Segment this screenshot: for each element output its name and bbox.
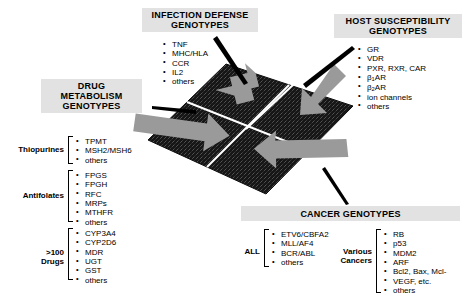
list-item: VDR [358,54,426,63]
list-item: ion channels [358,93,426,102]
list-item: β1AR [358,73,426,83]
group-label-antifolates: Antifolates [6,192,64,201]
infection-defense-title-line1: INFECTION DEFENSE [146,10,254,20]
drug-metabolism-title-line1: DRUG [45,81,138,91]
bracket-various-cancers [376,229,381,293]
list-item: others [76,276,116,285]
list-item: others [272,258,329,267]
host-susceptibility-title-line2: GENOTYPES [338,26,458,36]
panel-title-host-susceptibility: HOST SUSCEPTIBILITY GENOTYPES [334,14,462,38]
list-item: TPMT [76,137,132,146]
bracket-100-drugs [68,228,73,280]
list-item: IL2 [163,68,208,77]
list-item: MDM2 [384,249,446,258]
list-item: GST [76,266,116,275]
list-item: MHC/HLA [163,49,208,58]
pharmacogenomics-diagram: INFECTION DEFENSE GENOTYPES TNF MHC/HLA … [0,0,463,303]
bracket-thiopurines [68,136,73,164]
panel-title-drug-metabolism: DRUG METABOLISM GENOTYPES [41,79,142,113]
list-item: ARF [384,258,446,267]
list-thiopurines: TPMT MSH2/MSH6 others [76,137,132,165]
list-item: RB [384,230,446,239]
list-item: CYP2D6 [76,238,116,247]
host-susceptibility-title-line1: HOST SUSCEPTIBILITY [338,16,458,26]
list-item: others [76,156,132,165]
drug-metabolism-title-line2: METABOLISM [45,91,138,101]
list-item: others [76,218,113,227]
list-item: FPGS [76,171,113,180]
list-item: RFC [76,190,113,199]
list-item: UGT [76,257,116,266]
group-label-all: ALL [236,248,260,257]
list-item: CYP3A4 [76,229,116,238]
list-item: p53 [384,239,446,248]
bracket-antifolates [68,170,73,222]
list-100-drugs: CYP3A4 CYP2D6 MDR UGT GST others [76,229,116,285]
list-item: GR [358,45,426,54]
list-all-cancer: ETV6/CBFA2 MLL/AF4 BCR/ABL others [272,230,329,267]
group-label-various-cancers: Various Cancers [330,248,372,266]
list-various-cancers: RB p53 MDM2 ARF Bcl2, Bax, Mcl- VEGF, et… [384,230,446,296]
list-item: MLL/AF4 [272,239,329,248]
list-item: MDR [76,248,116,257]
infection-defense-title-line2: GENOTYPES [146,20,254,30]
list-item: others [384,286,446,295]
list-item: FPGH [76,180,113,189]
list-item: β2AR [358,83,426,93]
list-item: MSH2/MSH6 [76,146,132,155]
list-item: BCR/ABL [272,249,329,258]
group-label-thiopurines: Thiopurines [6,146,64,155]
list-item: MRPs [76,199,113,208]
panel-title-infection-defense: INFECTION DEFENSE GENOTYPES [142,8,258,32]
group-label-100-drugs: >100 Drugs [6,249,64,267]
list-item: PXR, RXR, CAR [358,64,426,73]
list-item: others [358,102,426,111]
list-item: TNF [163,40,208,49]
various-cancers-label-line2: Cancers [330,257,372,266]
drugs-label-line2: Drugs [6,258,64,267]
list-infection-defense: TNF MHC/HLA CCR IL2 others [163,40,208,87]
list-item: MTHFR [76,208,113,217]
list-item: Bcl2, Bax, Mcl- [384,267,446,276]
list-item: CCR [163,59,208,68]
drug-metabolism-title-line3: GENOTYPES [45,101,138,111]
list-antifolates: FPGS FPGH RFC MRPs MTHFR others [76,171,113,227]
list-item: ETV6/CBFA2 [272,230,329,239]
bracket-all [264,229,269,267]
panel-title-cancer-genotypes: CANCER GENOTYPES [241,206,460,221]
list-item: others [163,77,208,86]
list-item: VEGF, etc. [384,277,446,286]
list-host-susceptibility: GR VDR PXR, RXR, CAR β1AR β2AR ion chann… [358,45,426,111]
